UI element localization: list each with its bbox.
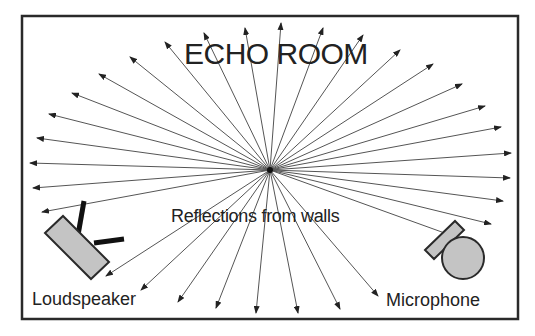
reflection-ray-arrow bbox=[72, 93, 270, 170]
reflection-ray-arrow bbox=[270, 64, 433, 170]
reflection-ray-arrow bbox=[99, 74, 270, 170]
microphone-label: Microphone bbox=[386, 291, 480, 309]
reflection-ray-arrow bbox=[270, 84, 462, 170]
ray-origin-point bbox=[267, 167, 273, 173]
echo-room-diagram: ECHO ROOM Reflections from walls Loudspe… bbox=[0, 0, 535, 336]
reflection-ray-arrow bbox=[270, 170, 298, 313]
reflection-ray-arrow bbox=[37, 138, 270, 170]
reflection-ray-arrow bbox=[270, 153, 511, 170]
reflection-ray-arrow bbox=[270, 170, 503, 201]
reflection-ray-arrow bbox=[270, 170, 510, 178]
diagram-title: ECHO ROOM bbox=[184, 39, 368, 69]
reflection-ray-arrow bbox=[216, 170, 270, 308]
reflection-ray-arrow bbox=[141, 170, 270, 290]
reflection-ray-arrow bbox=[33, 170, 270, 188]
reflection-ray-arrow bbox=[30, 163, 270, 170]
reflections-caption: Reflections from walls bbox=[171, 207, 339, 225]
reflection-ray-arrow bbox=[178, 170, 270, 302]
reflection-ray-arrow bbox=[270, 127, 501, 170]
microphone-icon bbox=[425, 221, 484, 279]
loudspeaker-icon bbox=[45, 201, 124, 279]
reflection-ray-arrow bbox=[270, 106, 485, 170]
reflection-ray-arrow bbox=[256, 170, 270, 313]
reflection-ray-arrow bbox=[130, 57, 270, 170]
reflection-ray-arrow bbox=[49, 114, 270, 170]
loudspeaker-label: Loudspeaker bbox=[32, 290, 136, 308]
